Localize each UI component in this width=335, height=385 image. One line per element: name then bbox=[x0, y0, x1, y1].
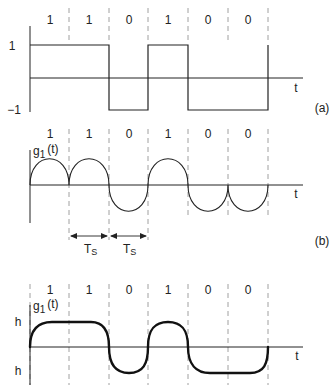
panel-b: 1 1 0 1 0 0 g1(t) t TS TS (b) bbox=[30, 127, 329, 257]
bit-label: 0 bbox=[245, 283, 252, 297]
bit-label: 0 bbox=[245, 13, 252, 27]
bit-label: 0 bbox=[205, 13, 212, 27]
bit-label: 1 bbox=[47, 13, 54, 27]
t-axis-label: t bbox=[294, 81, 298, 95]
signal-diagram: 1 1 0 1 0 0 1 −1 t (a) 1 1 0 1 0 0 g1(t) bbox=[0, 0, 335, 385]
bit-label: 0 bbox=[245, 127, 252, 141]
bit-label: 1 bbox=[165, 283, 172, 297]
ts-label: TS bbox=[84, 242, 97, 257]
level-pos-label: 1 bbox=[9, 39, 16, 53]
bit-label: 0 bbox=[126, 13, 133, 27]
panel-label-b: (b) bbox=[315, 234, 330, 248]
ts-label: TS bbox=[123, 242, 136, 257]
bit-label: 0 bbox=[205, 283, 212, 297]
panel-a: 1 1 0 1 0 0 1 −1 t (a) bbox=[7, 8, 329, 117]
t-axis-label: t bbox=[294, 187, 298, 201]
bit-label: 1 bbox=[47, 127, 54, 141]
signal-label-c: g1(t) bbox=[33, 297, 59, 315]
bit-label: 1 bbox=[86, 283, 93, 297]
panel-label-a: (a) bbox=[315, 101, 330, 115]
t-axis-label: t bbox=[295, 349, 299, 363]
bit-label: 0 bbox=[205, 127, 212, 141]
bit-label: 1 bbox=[86, 127, 93, 141]
level-neg-label: −1 bbox=[7, 103, 21, 117]
bit-label: 1 bbox=[86, 13, 93, 27]
level-neg-label: h bbox=[15, 364, 22, 378]
bit-label: 1 bbox=[165, 13, 172, 27]
level-pos-label: h bbox=[15, 315, 22, 329]
bit-label: 0 bbox=[126, 127, 133, 141]
bit-label: 1 bbox=[165, 127, 172, 141]
bit-label: 0 bbox=[126, 283, 133, 297]
signal-label-b: g1(t) bbox=[33, 142, 59, 160]
panel-c: 1 1 0 1 0 0 g1(t) h h t bbox=[15, 283, 303, 385]
bit-label: 1 bbox=[47, 283, 54, 297]
